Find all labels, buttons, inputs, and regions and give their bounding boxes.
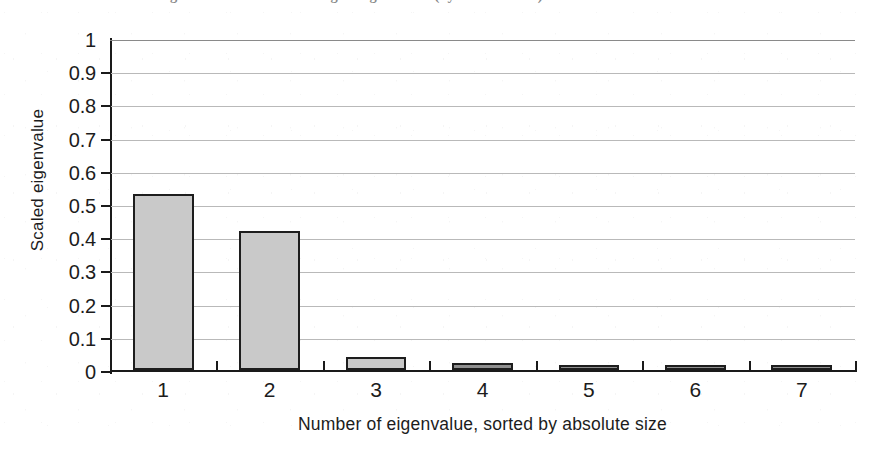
y-axis-tick [101,139,111,141]
x-axis-tick-label: 6 [690,378,702,402]
figure-caption: FIGURE 11.10 Scaled eigenvalues of the s… [18,0,858,5]
gridline [110,206,855,207]
x-axis-tick [749,361,751,372]
y-axis-tick-label: 0.8 [69,96,96,116]
y-axis-tick-label: 0.3 [69,262,96,282]
x-axis-line [110,370,857,372]
gridline [110,239,855,240]
x-axis-tick [429,361,431,372]
bar [559,365,620,370]
x-axis-tick [323,361,325,372]
gridline [110,339,855,340]
y-axis-tick [101,371,111,373]
y-axis-tick-label: 0.7 [69,130,96,150]
x-axis-title: Number of eigenvalue, sorted by absolute… [110,414,855,435]
x-axis-tick [536,361,538,372]
y-axis-tick-label: 0.1 [69,329,96,349]
figure-root: FIGURE 11.10 Scaled eigenvalues of the s… [0,0,872,456]
gridline [110,306,855,307]
y-axis-tick-label: 0.4 [69,229,96,249]
y-axis-tick [101,172,111,174]
y-axis-tick [101,72,111,74]
x-axis-tick-label: 1 [157,378,169,402]
bar [346,357,407,370]
gridline [110,140,855,141]
gridline [110,73,855,74]
bar [133,194,194,370]
plot-area: 00.10.20.30.40.50.60.70.80.91 1234567 [110,40,855,372]
y-axis-tick-label: 0.9 [69,63,96,83]
x-axis-tick-label: 5 [583,378,595,402]
y-axis-tick [101,305,111,307]
y-axis-tick [101,205,111,207]
y-axis-tick [101,271,111,273]
y-axis-tick-label: 0 [85,362,96,382]
x-axis-tick [216,361,218,372]
y-axis-tick [101,105,111,107]
y-axis-tick-label: 1 [85,30,96,50]
gridline [110,272,855,273]
bar [452,363,513,370]
y-axis-title: Scaled eigenvalue [28,80,48,280]
y-axis-tick-label: 0.5 [69,196,96,216]
y-axis-tick [101,238,111,240]
gridline [110,173,855,174]
x-axis-tick-label: 2 [264,378,276,402]
x-axis-tick-label: 7 [796,378,808,402]
bar [771,365,832,370]
bar [239,231,300,370]
gridline [110,40,855,41]
y-axis-tick-label: 0.2 [69,296,96,316]
y-axis-tick-label: 0.6 [69,163,96,183]
x-axis-end-tick [855,361,857,372]
x-axis-tick [642,361,644,372]
x-axis-tick-label: 3 [370,378,382,402]
x-axis-tick-label: 4 [477,378,489,402]
gridline [110,106,855,107]
bar [665,365,726,370]
y-axis-tick [101,338,111,340]
